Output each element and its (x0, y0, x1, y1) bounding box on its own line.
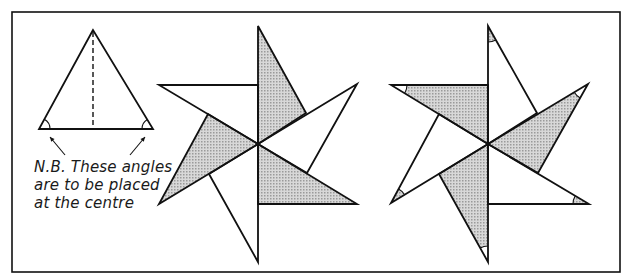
template-triangle-outline (39, 30, 153, 129)
template-triangle (39, 30, 153, 129)
angle-arc-icon (44, 119, 50, 129)
angle-arc-icon (142, 120, 147, 129)
pinwheel-star-right (391, 26, 589, 262)
note-line-1: N.B. These angles (34, 158, 172, 176)
pinwheel-star-left (159, 26, 357, 262)
note-arrows (50, 137, 145, 155)
note-line-2: are to be placed (34, 176, 172, 194)
angle-note: N.B. These angles are to be placed at th… (34, 158, 172, 212)
figure-canvas (0, 0, 630, 280)
note-line-3: at the centre (34, 194, 172, 212)
